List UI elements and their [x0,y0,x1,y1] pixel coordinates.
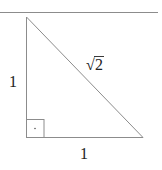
hypotenuse-value: 2 [95,56,103,73]
bottom-leg-label: 1 [80,145,88,162]
left-leg-label: 1 [9,73,17,90]
hypotenuse-label: √ 2 [86,56,104,73]
right-angle-marker [27,120,45,138]
sqrt-symbol: √ [86,56,95,73]
right-angle-dot [34,128,36,130]
right-triangle-diagram: 1 1 √ 2 [0,0,162,170]
